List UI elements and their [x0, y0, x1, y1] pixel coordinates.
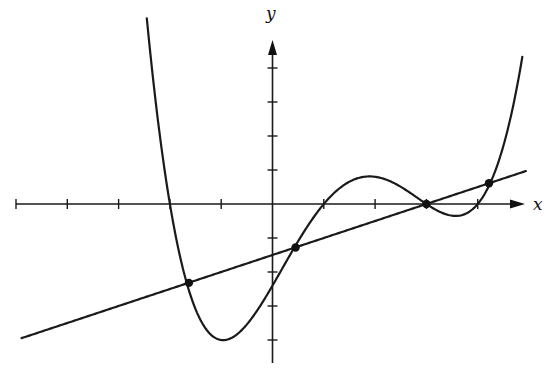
x-axis	[16, 199, 525, 209]
intersection-point	[422, 200, 430, 208]
x-axis-arrow-icon	[510, 200, 525, 209]
x-axis-label: x	[533, 194, 543, 214]
quartic-curve	[147, 18, 523, 340]
y-axis-arrow-icon	[268, 40, 277, 55]
intersection-point	[291, 243, 299, 251]
intersection-point	[485, 179, 493, 187]
y-axis-label: y	[265, 3, 276, 23]
y-axis	[268, 40, 278, 363]
intersection-point	[185, 279, 193, 287]
secant-line	[22, 171, 526, 338]
function-graph: x y	[0, 0, 557, 369]
